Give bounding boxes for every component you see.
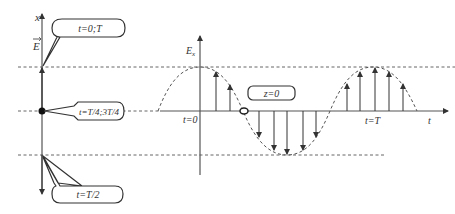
callout-t-half: t=T/2 [43,156,123,203]
zero-crossing-marker [240,108,248,114]
left-panel: x E t=0;T t=T/4;3T/4 t=T/2 [32,11,125,203]
right-panel: Ex t=0 t=T t z=0 [158,36,448,175]
position-label-box: z=0 [248,86,295,100]
svg-text:t=0;T: t=0;T [78,23,103,34]
period-label: t=T [365,115,382,126]
svg-text:t=T/4;3T/4: t=T/4;3T/4 [79,107,120,117]
svg-text:z=0: z=0 [263,88,280,99]
x-axis-label: x [34,11,40,23]
svg-text:t=T/2: t=T/2 [77,189,100,200]
origin-label: t=0 [183,114,198,125]
t-axis-label: t [428,115,431,126]
e-vector-label: E [32,40,40,52]
callout-t0: t=0;T [43,19,125,66]
wave-diagram: x E t=0;T t=T/4;3T/4 t=T/2 Ex t=0 t=T t [0,0,455,214]
ex-axis-label: Ex [185,45,196,58]
callout-t-quarter: t=T/4;3T/4 [44,102,124,120]
